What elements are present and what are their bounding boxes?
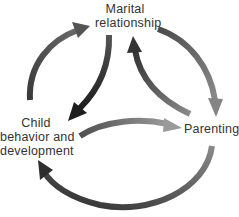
node-label-line: behavior and — [0, 130, 72, 144]
arrows-layer — [0, 0, 239, 217]
node-label-line: Child — [0, 116, 72, 130]
arrow-child-to-parenting — [80, 118, 182, 136]
node-label-line: Marital — [95, 2, 155, 16]
node-marital-relationship: Marital relationship — [95, 2, 155, 30]
arrow-marital-to-child — [68, 35, 109, 121]
arrow-parenting-to-marital — [127, 36, 190, 114]
node-child-behavior-development: Child behavior and development — [0, 116, 72, 158]
node-label-line: relationship — [95, 16, 155, 30]
node-label-line: Parenting — [184, 122, 239, 136]
arrow-child-to-marital — [30, 22, 90, 100]
node-parenting: Parenting — [184, 122, 239, 136]
family-systems-diagram: Marital relationship Child behavior and … — [0, 0, 239, 217]
node-label-line: development — [0, 144, 72, 158]
